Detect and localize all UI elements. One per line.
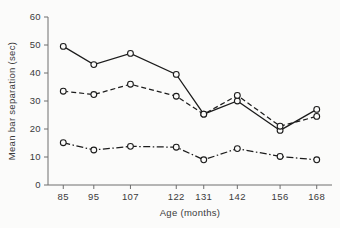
data-point-marker bbox=[277, 154, 283, 160]
data-point-marker bbox=[314, 157, 320, 163]
chart-figure: 01020304050608595107122131142156168Age (… bbox=[0, 0, 340, 228]
x-axis-tick-label: 142 bbox=[229, 191, 246, 202]
data-point-marker bbox=[60, 88, 66, 94]
x-axis-tick-label: 95 bbox=[88, 191, 99, 202]
data-point-marker bbox=[60, 44, 66, 50]
data-point-marker bbox=[128, 81, 134, 87]
y-axis-title: Mean bar separation (sec) bbox=[6, 42, 17, 160]
series-line bbox=[63, 46, 316, 130]
data-point-marker bbox=[60, 140, 66, 146]
chart-labels-layer: 01020304050608595107122131142156168Age (… bbox=[6, 11, 325, 218]
y-axis-tick-label: 0 bbox=[35, 179, 41, 190]
data-point-marker bbox=[234, 146, 240, 152]
y-axis-tick-label: 10 bbox=[30, 151, 41, 162]
data-point-marker bbox=[201, 111, 207, 117]
data-point-marker bbox=[91, 62, 97, 68]
x-axis-title: Age (months) bbox=[160, 207, 221, 218]
data-point-marker bbox=[201, 157, 207, 163]
data-point-marker bbox=[314, 107, 320, 113]
data-point-marker bbox=[128, 143, 134, 149]
data-point-marker bbox=[173, 72, 179, 78]
x-axis-tick-label: 122 bbox=[168, 191, 185, 202]
data-point-marker bbox=[234, 98, 240, 104]
y-axis-tick-label: 50 bbox=[30, 39, 41, 50]
x-axis-tick-label: 168 bbox=[308, 191, 325, 202]
series-dashed bbox=[60, 81, 319, 129]
data-point-marker bbox=[173, 144, 179, 150]
series-dashdot bbox=[60, 140, 319, 163]
line-chart: 01020304050608595107122131142156168Age (… bbox=[0, 0, 340, 228]
data-point-marker bbox=[314, 114, 320, 120]
x-axis-tick-label: 85 bbox=[58, 191, 69, 202]
data-point-marker bbox=[277, 123, 283, 129]
y-axis-tick-label: 40 bbox=[30, 67, 41, 78]
data-point-marker bbox=[234, 93, 240, 99]
series-solid bbox=[60, 44, 319, 134]
y-axis-tick-label: 20 bbox=[30, 123, 41, 134]
chart-axes bbox=[44, 17, 332, 189]
y-axis-tick-label: 30 bbox=[30, 95, 41, 106]
x-axis-tick-label: 131 bbox=[195, 191, 212, 202]
data-point-marker bbox=[91, 92, 97, 98]
series-line bbox=[63, 84, 316, 126]
data-point-marker bbox=[173, 93, 179, 99]
data-point-marker bbox=[91, 147, 97, 153]
chart-series-layer bbox=[60, 44, 319, 163]
data-point-marker bbox=[128, 51, 134, 57]
y-axis-tick-label: 60 bbox=[30, 11, 41, 22]
x-axis-tick-label: 107 bbox=[122, 191, 139, 202]
x-axis-tick-label: 156 bbox=[272, 191, 289, 202]
